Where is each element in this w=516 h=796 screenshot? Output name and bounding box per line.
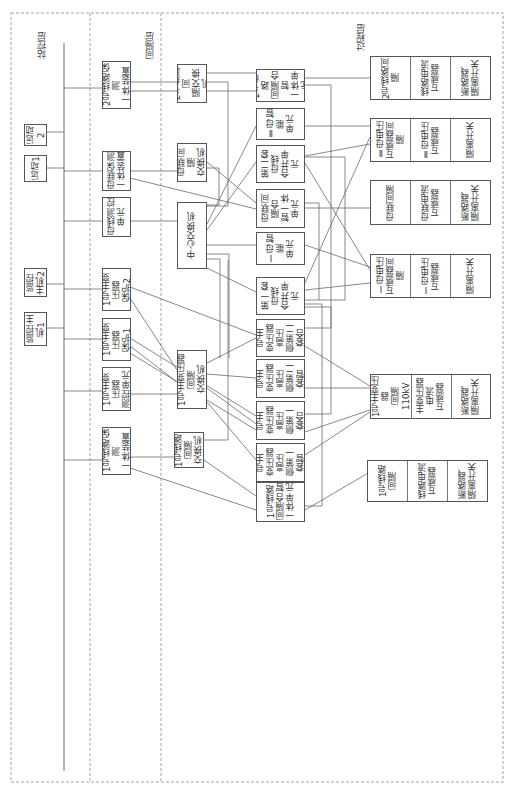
remote-2-box: 远动2	[24, 124, 47, 146]
first-bus-merging-unit: 第一套母线 合并单元	[256, 277, 305, 315]
line1-merging-intelligent-unit: 1号线路 间隔合智 一体单元	[256, 482, 305, 522]
busbar-measure-control-box: 母线测控 单元	[102, 197, 131, 237]
process-bay-transformer-110kv: 1号主变压器 间隔110kV 主变压器电流 互感器 断路器、 隔离开关	[370, 374, 491, 419]
bus-coupler-switch-box: 母联间隔 交换机	[177, 143, 207, 182]
remote-1-box: 远动1	[24, 155, 47, 182]
line2-bay-switch-box: 2号线路间 隔交换机	[177, 64, 207, 103]
process-bay-line1: 1号线路间隔 线路电流 互感器 断路器、 隔离开关	[367, 460, 488, 502]
line1-protection-box: 1号线路保测 一体装置	[102, 427, 131, 475]
transformer-measure-control-box: 1号主变压器 测控单元	[102, 367, 131, 411]
process-bay-bus-coupler: 母联间隔 母联电流 互感器 断路器、 隔离开关	[370, 180, 491, 225]
transformer-hv-second-intelligent-terminal: 110kV1号主 变压器高压 侧第二套智 能终端	[256, 359, 305, 398]
transformer-hv-first-intelligent-terminal: 110kV1号主 变压器高压 侧第一套智 能终端	[256, 443, 305, 482]
bus-coupler-merging-unit: 母联间隔合 智一体单元	[256, 189, 305, 228]
substation-architecture-diagram: 站控层 间隔层 过程层 远动2 远动1 监控主机2 监控主机1 2号线路保测 一…	[0, 0, 516, 796]
line1-bay-switch-box: 1号线路间隔 交换机	[174, 432, 204, 468]
station-layer-label: 站控层	[34, 32, 47, 59]
process-bay-line2: 2号线路间隔 线路电流 互感器 断路器、 隔离开关	[370, 56, 491, 100]
bus-coupler-protection-box: 母联保测 一体装置	[102, 151, 131, 191]
process-bay-bus2-pt: Ⅱ母电压 互感器间隔 Ⅱ母电压 互感器 隔离开关	[370, 118, 491, 162]
transformer-protection-2-box: 1号主变压器 保护2	[102, 268, 131, 311]
bus2-intelligent-unit: Ⅱ母智能 单元	[256, 108, 305, 140]
process-bay-bus1-pt: Ⅰ母电压 互感器间隔 Ⅰ母电压 互感器 隔离开关	[370, 254, 491, 298]
line2-merging-intelligent-unit: 2号线路 间隔合智 一体单元	[256, 69, 305, 102]
second-bus-merging-unit: 第二套母线 合并单元	[256, 145, 305, 183]
transformer-hv-first-merging-unit: 110kV1号主 变压器高压 侧第一套合 并单元	[256, 401, 305, 440]
transformer-protection-1-box: 1号主变压器 保护1	[102, 318, 131, 361]
monitor-host-2-box: 监控主机2	[24, 268, 47, 297]
transformer-bay-switch-box: 1号主变压器间隔 交换机	[177, 350, 207, 409]
process-layer-label: 过程层	[353, 24, 366, 51]
transformer-hv-second-merging-unit: 110kV1号主 变压器高压 侧第二套合 并单元	[256, 319, 305, 357]
monitor-host-1-box: 监控主机1	[24, 312, 47, 346]
bay-layer-label: 间隔层	[142, 32, 155, 59]
bus1-intelligent-unit: Ⅰ母智能 单元	[256, 232, 305, 265]
central-switch-box: 中心交换机	[177, 202, 207, 269]
line2-protection-box: 2号线路保测 一体装置	[102, 61, 131, 109]
